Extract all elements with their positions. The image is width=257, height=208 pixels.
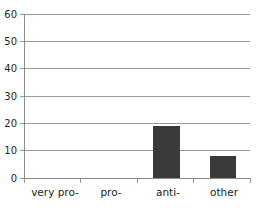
x-axis-label-very-pro: very pro- xyxy=(31,186,79,198)
bar-chart: 60 50 40 30 20 10 0 very pro- pro- anti-… xyxy=(0,0,257,208)
x-axis-label-anti: anti- xyxy=(156,186,180,198)
y-axis-label-0: 0 xyxy=(11,173,17,184)
y-axis-label-60: 60 xyxy=(4,9,17,20)
x-axis-label-other: other xyxy=(210,186,239,198)
bar-anti xyxy=(156,126,180,178)
y-axis-label-10: 10 xyxy=(4,145,17,156)
y-axis-label-20: 20 xyxy=(4,118,17,129)
x-axis-label-pro: pro- xyxy=(100,186,121,198)
y-axis-label-40: 40 xyxy=(4,63,17,74)
bar-other xyxy=(212,156,236,178)
y-axis-label-30: 30 xyxy=(4,91,17,102)
chart-canvas: 60 50 40 30 20 10 0 very pro- pro- anti-… xyxy=(0,0,257,208)
y-axis-label-50: 50 xyxy=(4,36,17,47)
